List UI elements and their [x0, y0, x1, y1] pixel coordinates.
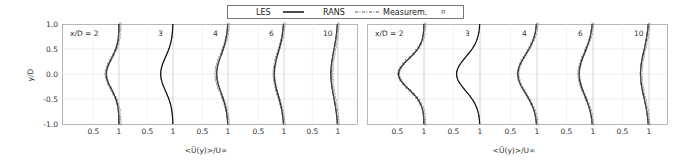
y-tick-label: -1.0 — [43, 120, 58, 129]
station-label: 3 — [465, 29, 470, 38]
x-tick-label: 1 — [647, 127, 652, 136]
y-axis-label: y/D — [26, 68, 35, 81]
station-label: x/D = 2 — [70, 29, 99, 38]
plot-panel-left: 10.5x/D = 210.5310.5410.5610.5101.00.50.… — [43, 20, 357, 137]
x-tick-label: 0.5 — [447, 127, 459, 136]
station-label: 3 — [158, 29, 163, 38]
x-tick-label: 1 — [591, 127, 596, 136]
x-tick-label: 1 — [171, 127, 176, 136]
x-tick-label: 0.5 — [196, 127, 208, 136]
x-tick-label: 1 — [226, 127, 231, 136]
x-tick-label: 0.5 — [252, 127, 264, 136]
x-tick-label: 1 — [478, 127, 483, 136]
station-label: 10 — [323, 29, 333, 38]
station-label: 4 — [522, 29, 527, 38]
y-tick-label: -0.5 — [43, 95, 58, 104]
x-tick-label: 0.5 — [141, 127, 153, 136]
x-tick-label: 1 — [535, 127, 540, 136]
x-tick-label: 0.5 — [504, 127, 516, 136]
x-tick-label: 0.5 — [87, 127, 99, 136]
legend-rans-label: RANS — [323, 8, 345, 17]
x-axis-label-left: <Ū(y)>/U∞ — [185, 146, 228, 155]
station-label: x/D = 2 — [375, 29, 404, 38]
x-tick-label: 0.5 — [616, 127, 628, 136]
plot-panel-right: 10.5x/D = 210.5310.5410.5610.510 — [367, 23, 668, 136]
legend: LES RANS Measurem. — [228, 6, 464, 19]
x-tick-label: 1 — [117, 127, 122, 136]
station-label: 4 — [213, 29, 218, 38]
legend-les-label: LES — [256, 8, 271, 17]
wake-profile-figure: LES RANS Measurem. y/D <Ū(y)>/U∞ <Ū(y)>/… — [0, 0, 687, 163]
y-tick-label: 0.5 — [46, 45, 58, 54]
y-tick-label: 0.0 — [46, 70, 58, 79]
x-tick-label: 0.5 — [560, 127, 572, 136]
x-tick-label: 1 — [282, 127, 287, 136]
station-label: 10 — [634, 29, 644, 38]
y-tick-label: 1.0 — [46, 20, 58, 29]
x-axis-label-right: <Ū(y)>/U∞ — [493, 146, 536, 155]
legend-measurement-label: Measurem. — [383, 8, 427, 17]
station-label: 6 — [269, 29, 274, 38]
x-tick-label: 0.5 — [306, 127, 318, 136]
x-tick-label: 1 — [336, 127, 341, 136]
x-tick-label: 0.5 — [391, 127, 403, 136]
station-label: 6 — [578, 29, 583, 38]
x-tick-label: 1 — [422, 127, 427, 136]
